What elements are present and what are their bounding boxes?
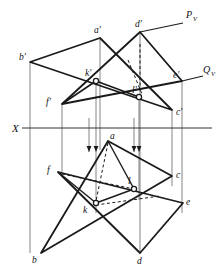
vertex-label-e-prime: e' xyxy=(173,70,180,80)
hidden-lines-top xyxy=(62,143,160,205)
vertex-label-c-prime: c' xyxy=(176,107,183,117)
ground-line-label: X xyxy=(11,122,20,134)
projection-drawing-canvas: X P V Q V a' b' c' d' e' f' k' l' a b c … xyxy=(0,0,223,274)
vertex-label-a: a xyxy=(110,131,115,141)
vertex-label-e: e xyxy=(186,197,190,207)
arrow-head-4 xyxy=(137,146,142,152)
vertex-label-f: f xyxy=(47,165,51,175)
vertex-label-b: b xyxy=(32,255,37,265)
arrow-head-1 xyxy=(87,146,92,152)
marker-k-prime xyxy=(93,78,98,83)
marker-l xyxy=(131,186,136,191)
triangle-def-front xyxy=(62,32,182,104)
vertex-label-k-prime: k' xyxy=(85,68,92,78)
vertex-label-f-prime: f' xyxy=(46,97,52,107)
trace-label-qv: Q V xyxy=(203,64,216,77)
marker-k xyxy=(93,200,98,205)
vertex-label-d: d xyxy=(137,256,142,266)
trace-label-pv-letter: P xyxy=(185,9,192,20)
arrow-head-3 xyxy=(132,146,137,152)
arrow-head-2 xyxy=(94,146,99,152)
trace-label-qv-letter: Q xyxy=(203,64,211,75)
trace-label-pv: P V xyxy=(185,9,198,22)
marker-l-prime xyxy=(136,94,141,99)
dashed-line-k-e xyxy=(96,196,160,205)
trace-line-pv xyxy=(140,23,183,32)
vertex-label-c: c xyxy=(176,170,181,180)
vertex-label-b-prime: b' xyxy=(19,52,27,62)
trace-lines-group xyxy=(140,23,203,81)
trace-label-pv-subscript: V xyxy=(193,15,198,22)
technical-drawing-figure: X P V Q V a' b' c' d' e' f' k' l' a b c … xyxy=(0,0,223,274)
vertex-label-l: l xyxy=(128,176,131,186)
front-view-group xyxy=(30,32,182,110)
triangle-abc-front xyxy=(30,38,172,110)
trace-label-qv-subscript: V xyxy=(211,70,216,77)
vertex-label-d-prime: d' xyxy=(135,19,143,29)
vertex-label-a-prime: a' xyxy=(94,25,102,35)
trace-line-qv xyxy=(182,76,203,81)
triangle-def-top xyxy=(58,172,183,253)
vertex-label-k: k xyxy=(83,205,88,215)
